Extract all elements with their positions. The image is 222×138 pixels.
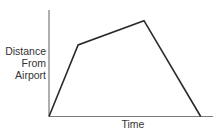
- y-axis-label-line-3: Airport: [5, 69, 46, 81]
- y-axis-label: Distance From Airport: [5, 45, 46, 81]
- x-axis-label: Time: [113, 118, 153, 130]
- y-axis-label-line-2: From: [5, 57, 46, 69]
- data-line: [49, 21, 201, 117]
- y-axis-label-line-1: Distance: [5, 45, 46, 57]
